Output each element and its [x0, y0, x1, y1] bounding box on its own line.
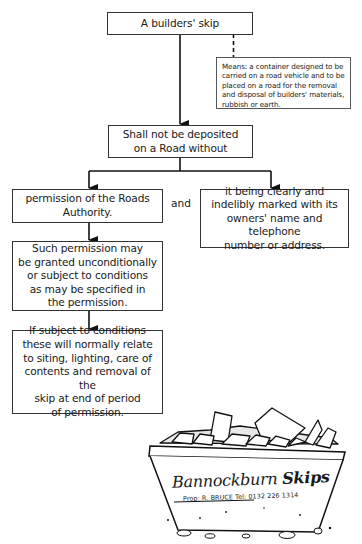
marking-box: it being clearly and indelibly marked wi…: [200, 189, 349, 248]
top-box: A builders' skip: [107, 12, 253, 35]
skip-brand-word2: Skips: [282, 467, 330, 488]
and-label: and: [171, 197, 191, 209]
top-box-text: A builders' skip: [141, 17, 219, 31]
granted-box: Such permission may be granted unconditi…: [12, 241, 163, 311]
rule-box-text: Shall not be deposited on a Road without: [123, 128, 239, 155]
definition-note: Means: a container designed to be carrie…: [216, 57, 351, 109]
permission-box: permission of the Roads Authority.: [12, 189, 163, 223]
rule-box: Shall not be deposited on a Road without: [108, 125, 253, 158]
granted-box-text: Such permission may be granted unconditi…: [18, 242, 157, 310]
skip-brand-word1: Bannockburn: [172, 469, 278, 492]
marking-box-text: it being clearly and indelibly marked wi…: [205, 185, 344, 253]
definition-note-text: Means: a container designed to be carrie…: [222, 62, 346, 109]
permission-box-text: permission of the Roads Authority.: [25, 192, 149, 219]
conditions-box-text: If subject to conditions these will norm…: [17, 324, 158, 419]
